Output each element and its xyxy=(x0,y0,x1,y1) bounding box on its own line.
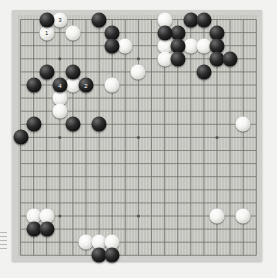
black-stone[interactable] xyxy=(170,51,185,66)
black-stone[interactable] xyxy=(105,38,120,53)
black-stone[interactable] xyxy=(157,25,172,40)
star-point xyxy=(137,57,140,60)
white-stone[interactable] xyxy=(236,209,251,224)
black-stone[interactable] xyxy=(196,12,211,27)
stone-move-number: 4 xyxy=(52,78,67,93)
star-point xyxy=(137,215,140,218)
star-point xyxy=(58,57,61,60)
white-stone[interactable] xyxy=(52,104,67,119)
black-stone[interactable] xyxy=(92,12,107,27)
black-stone[interactable] xyxy=(39,12,54,27)
edge-tick xyxy=(0,240,7,241)
star-point xyxy=(58,215,61,218)
black-stone[interactable] xyxy=(105,248,120,263)
white-stone[interactable] xyxy=(236,117,251,132)
star-point xyxy=(216,136,219,139)
stone-move-number: 1 xyxy=(39,25,54,40)
white-stone[interactable] xyxy=(118,38,133,53)
black-stone[interactable] xyxy=(92,117,107,132)
edge-tick xyxy=(0,236,7,237)
white-stone[interactable] xyxy=(105,78,120,93)
board-grid xyxy=(0,0,277,278)
white-stone[interactable]: 1 xyxy=(39,25,54,40)
black-stone[interactable] xyxy=(223,51,238,66)
stone-move-number: 2 xyxy=(79,78,94,93)
edge-tick xyxy=(0,248,7,249)
black-stone[interactable] xyxy=(26,117,41,132)
edge-tick xyxy=(0,232,7,233)
black-stone[interactable] xyxy=(13,130,28,145)
edge-tick xyxy=(0,244,7,245)
black-stone[interactable] xyxy=(65,117,80,132)
white-stone[interactable] xyxy=(210,209,225,224)
black-stone[interactable] xyxy=(26,78,41,93)
star-point xyxy=(58,136,61,139)
stone-move-number: 3 xyxy=(52,12,67,27)
white-stone[interactable] xyxy=(131,64,146,79)
go-board-screenshot: 3142 xyxy=(0,0,277,278)
black-stone[interactable]: 4 xyxy=(52,78,67,93)
white-stone[interactable]: 3 xyxy=(52,12,67,27)
black-stone[interactable] xyxy=(196,64,211,79)
white-stone[interactable] xyxy=(65,25,80,40)
star-point xyxy=(137,136,140,139)
black-stone[interactable]: 2 xyxy=(79,78,94,93)
black-stone[interactable] xyxy=(39,222,54,237)
edge-marks xyxy=(0,232,10,272)
